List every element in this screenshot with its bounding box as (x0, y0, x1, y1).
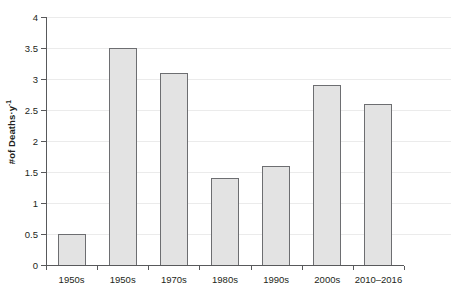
y-axis-tick (41, 234, 46, 235)
x-axis-tick-label: 2000s (314, 274, 340, 285)
x-axis-tick-label: 1950s (59, 274, 85, 285)
y-axis-tick-label: 4 (4, 12, 38, 23)
y-axis-tick-label: 3.5 (4, 43, 38, 54)
y-axis-title: #of Deaths·y-1 (0, 0, 22, 265)
y-axis-tick-label: 0.5 (4, 229, 38, 240)
bar (262, 166, 290, 266)
y-axis-tick (41, 172, 46, 173)
x-axis-tick (251, 266, 252, 270)
y-axis-tick-label: 3 (4, 74, 38, 85)
y-axis-tick-labels: 00.511.522.533.54 (0, 0, 38, 301)
x-axis-tick-label: 2010–2016 (355, 274, 403, 285)
bar (160, 73, 188, 266)
y-axis-tick-label: 0 (4, 260, 38, 271)
y-axis-title-label: #of Deaths·y (6, 106, 17, 164)
bar (109, 48, 137, 266)
y-axis-tick-label: 2 (4, 136, 38, 147)
y-axis-title-text: #of Deaths·y-1 (5, 100, 17, 164)
gridline (46, 79, 451, 80)
bar (58, 234, 86, 266)
gridline (46, 48, 451, 49)
bar (211, 178, 239, 266)
x-axis-tick (353, 266, 354, 270)
bar-chart: #of Deaths·y-1 00.511.522.533.54 1950s19… (0, 0, 459, 301)
y-axis-line (46, 17, 47, 265)
x-axis-tick (97, 266, 98, 270)
x-axis-tick-label: 1950s (110, 274, 136, 285)
y-axis-tick (41, 110, 46, 111)
x-axis-tick-label: 1980s (212, 274, 238, 285)
y-axis-tick (41, 203, 46, 204)
y-axis-title-superscript: -1 (5, 100, 12, 106)
y-axis-tick (41, 48, 46, 49)
y-axis-tick (41, 141, 46, 142)
gridline (46, 17, 451, 18)
y-axis-tick (41, 17, 46, 18)
x-axis-tick (404, 266, 405, 270)
x-axis-tick (302, 266, 303, 270)
x-axis-tick (199, 266, 200, 270)
y-axis-tick-label: 1 (4, 198, 38, 209)
x-axis-tick-label: 1990s (263, 274, 289, 285)
x-axis-tick-label: 1970s (161, 274, 187, 285)
y-axis-tick-label: 2.5 (4, 105, 38, 116)
y-axis-tick (41, 79, 46, 80)
x-axis-tick (148, 266, 149, 270)
x-axis-line (46, 265, 404, 266)
bar (313, 85, 341, 266)
bar (364, 104, 392, 266)
y-axis-tick-label: 1.5 (4, 167, 38, 178)
plot-area (46, 17, 451, 265)
x-axis-tick (46, 266, 47, 270)
